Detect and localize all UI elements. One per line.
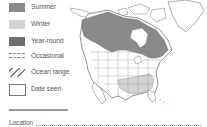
caribbean-islands [159, 99, 168, 104]
location-field[interactable] [36, 125, 201, 126]
legend-label: Occasional [31, 51, 64, 61]
ocean-hatch-icon [9, 68, 25, 77]
location-label: Location [9, 118, 33, 127]
legend-label: Ocean range [31, 67, 69, 77]
legend-label: Winter [31, 19, 50, 29]
range-map [68, 0, 207, 110]
occasional-dashed-icon [9, 53, 25, 58]
year-round-swatch-icon [9, 37, 25, 46]
date-entry-line[interactable] [9, 109, 68, 111]
legend-label: Date seen [31, 84, 61, 94]
date-seen-checkbox[interactable] [9, 84, 26, 96]
winter-swatch-icon [9, 20, 25, 29]
legend-label: Year-round [31, 36, 64, 46]
legend-label: Summer [31, 2, 56, 12]
summer-swatch-icon [9, 3, 25, 12]
greenland-shape [168, 0, 204, 32]
